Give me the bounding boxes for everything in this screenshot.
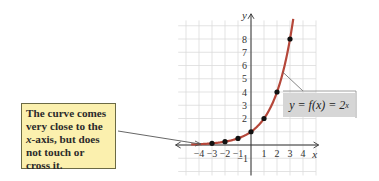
callout-line: very close to the <box>26 120 111 133</box>
callout-box: The curve comes very close to the x-axis… <box>21 103 116 169</box>
svg-text:2: 2 <box>275 148 280 159</box>
svg-text:4: 4 <box>242 87 247 98</box>
callout-line: The curve comes <box>26 107 111 120</box>
callout-line: x-axis, but does <box>26 133 111 146</box>
svg-text:−2: −2 <box>220 148 231 159</box>
svg-text:x: x <box>311 148 317 160</box>
svg-text:−1: −1 <box>237 153 248 164</box>
svg-text:y: y <box>241 9 247 21</box>
svg-text:4: 4 <box>301 148 306 159</box>
callout-line: cross it. <box>26 159 111 172</box>
svg-text:−3: −3 <box>207 148 218 159</box>
svg-text:2: 2 <box>242 113 247 124</box>
svg-text:8: 8 <box>242 34 247 45</box>
equation-label: y = f(x) = 2x <box>283 93 355 117</box>
svg-text:−4: −4 <box>194 148 205 159</box>
svg-text:7: 7 <box>242 47 247 58</box>
svg-text:6: 6 <box>242 60 247 71</box>
svg-text:5: 5 <box>242 73 247 84</box>
callout-line: not touch or <box>26 146 111 159</box>
svg-text:3: 3 <box>288 148 293 159</box>
svg-text:1: 1 <box>262 148 267 159</box>
svg-text:3: 3 <box>242 100 247 111</box>
